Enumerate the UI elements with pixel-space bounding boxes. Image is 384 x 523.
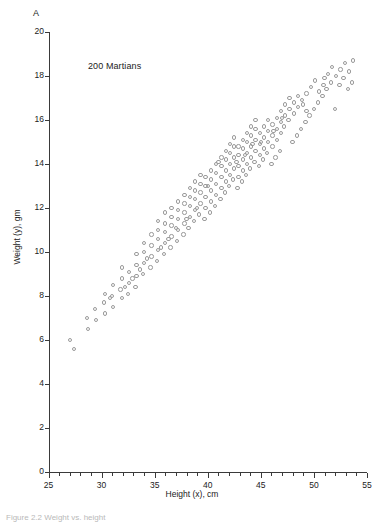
y-tick-label: 8 (20, 290, 44, 300)
data-point (176, 217, 180, 221)
y-tick (45, 472, 49, 473)
x-tick-minor (335, 473, 336, 476)
data-point (162, 252, 166, 256)
data-point (169, 206, 173, 210)
data-point (324, 87, 328, 91)
data-point (219, 175, 223, 179)
data-point (209, 168, 213, 172)
data-point (120, 296, 124, 300)
data-point (209, 188, 213, 192)
data-point (243, 153, 247, 157)
data-point (142, 250, 146, 254)
data-point (193, 188, 197, 192)
data-point (330, 65, 334, 69)
data-point (224, 157, 228, 161)
data-point (130, 276, 134, 280)
x-tick-minor (240, 473, 241, 476)
data-point (317, 89, 321, 93)
data-point (206, 184, 210, 188)
data-point (232, 135, 236, 139)
y-axis-line (49, 32, 50, 472)
data-point (85, 316, 89, 320)
y-tick (45, 296, 49, 297)
y-tick (45, 428, 49, 429)
data-point (287, 107, 291, 111)
data-point (241, 168, 245, 172)
data-point (102, 300, 106, 304)
data-point (155, 259, 159, 263)
data-point (203, 206, 207, 210)
data-point (174, 226, 178, 230)
data-point (262, 135, 266, 139)
data-point (234, 160, 238, 164)
x-tick-major (49, 473, 50, 478)
data-point (182, 193, 186, 197)
data-point (182, 221, 186, 225)
data-point (182, 210, 186, 214)
data-point (141, 272, 145, 276)
y-tick-label: 2 (20, 422, 44, 432)
data-point (278, 149, 282, 153)
data-point (193, 179, 197, 183)
data-point (134, 274, 138, 278)
data-point (253, 118, 257, 122)
data-point (312, 107, 316, 111)
data-point (265, 151, 269, 155)
y-tick-label: 0 (20, 466, 44, 476)
data-point (282, 124, 286, 128)
data-point (188, 204, 192, 208)
data-point (287, 96, 291, 100)
data-point (279, 131, 283, 135)
data-point (326, 72, 330, 76)
data-point (127, 281, 131, 285)
data-point (259, 140, 263, 144)
data-point (168, 245, 172, 249)
data-point (186, 226, 190, 230)
data-point (188, 186, 192, 190)
data-point (198, 173, 202, 177)
data-point (241, 157, 245, 161)
data-point (350, 80, 354, 84)
data-point (193, 197, 197, 201)
y-tick (45, 384, 49, 385)
x-tick-minor (144, 473, 145, 476)
data-point (209, 177, 213, 181)
data-point (203, 195, 207, 199)
data-point (322, 76, 326, 80)
y-tick-label: 14 (20, 158, 44, 168)
data-point (235, 186, 239, 190)
x-tick-minor (176, 473, 177, 476)
data-point (249, 133, 253, 137)
data-point (169, 215, 173, 219)
data-point (156, 219, 160, 223)
data-point (163, 210, 167, 214)
data-point (262, 124, 266, 128)
data-point (341, 76, 345, 80)
data-point (343, 61, 347, 65)
data-point (273, 155, 277, 159)
y-tick-label: 4 (20, 378, 44, 388)
data-point (231, 177, 235, 181)
y-tick (45, 208, 49, 209)
data-point (149, 232, 153, 236)
x-tick-minor (187, 473, 188, 476)
data-point (103, 311, 107, 315)
data-point (208, 210, 212, 214)
x-tick-minor (325, 473, 326, 476)
data-point (269, 162, 273, 166)
data-point (295, 133, 299, 137)
panel-letter: A (33, 8, 39, 18)
data-point (283, 102, 287, 106)
data-point (156, 237, 160, 241)
x-tick-major (314, 473, 315, 478)
data-point (126, 292, 130, 296)
data-point (303, 120, 307, 124)
data-point (149, 254, 153, 258)
data-point (181, 232, 185, 236)
data-point (346, 87, 350, 91)
data-point (195, 206, 199, 210)
y-tick (45, 164, 49, 165)
x-tick-minor (282, 473, 283, 476)
data-point (134, 252, 138, 256)
x-tick-minor (123, 473, 124, 476)
